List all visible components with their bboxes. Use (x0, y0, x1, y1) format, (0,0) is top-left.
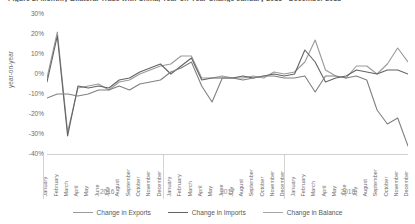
figure-container: Figure 2: Monthly Bilateral Trade with C… (0, 0, 415, 224)
legend-item-change-in-balance[interactable]: Change in Balance (263, 209, 343, 216)
year-group-label-2017: 2017 (167, 188, 287, 195)
legend-item-change-in-exports[interactable]: Change in Exports (73, 209, 151, 216)
legend-label: Change in Imports (192, 209, 246, 216)
y-tick-neg30: -30% (18, 131, 44, 138)
series-line-change-in-exports (47, 32, 408, 132)
y-tick-30: 30% (18, 11, 44, 18)
y-tick-neg20: -20% (18, 111, 44, 118)
series-line-change-in-imports (47, 36, 408, 136)
y-axis-label: year-on-year (7, 40, 14, 100)
y-tick-neg40: -40% (18, 151, 44, 158)
legend-label: Change in Balance (287, 209, 343, 216)
y-tick-neg10: -10% (18, 91, 44, 98)
year-group-label-2016: 2016 (47, 188, 167, 195)
y-tick-20: 20% (18, 31, 44, 38)
chart-legend: Change in ExportsChange in ImportsChange… (0, 203, 415, 221)
y-tick-0: 0% (18, 71, 44, 78)
year-group-label-2018: 2018 (288, 188, 408, 195)
year-separator (163, 155, 164, 199)
plot-area (47, 14, 408, 154)
year-separator (284, 155, 285, 199)
legend-swatch-icon (168, 212, 188, 213)
legend-swatch-icon (263, 212, 283, 213)
y-tick-10: 10% (18, 51, 44, 58)
series-line-change-in-balance (47, 62, 408, 146)
figure-title: Figure 2: Monthly Bilateral Trade with C… (8, 0, 408, 2)
legend-item-change-in-imports[interactable]: Change in Imports (168, 209, 246, 216)
legend-label: Change in Exports (97, 209, 151, 216)
x-axis-year-labels: 201620172018 (47, 186, 408, 200)
year-separator (43, 155, 44, 199)
chart-lines (47, 14, 408, 154)
legend-swatch-icon (73, 212, 93, 213)
